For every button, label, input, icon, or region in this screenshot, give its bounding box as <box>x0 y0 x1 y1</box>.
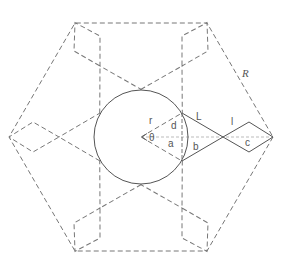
label-l: l <box>231 116 233 127</box>
label-L: L <box>196 111 202 122</box>
arm-180 <box>9 113 100 161</box>
arm-240 <box>54 11 141 114</box>
arm-120 <box>54 161 141 264</box>
label-theta: θ <box>149 132 155 143</box>
arm-300 <box>141 11 228 114</box>
label-d: d <box>171 120 177 131</box>
label-c: c <box>245 137 250 148</box>
label-b: b <box>193 141 199 152</box>
label-a: a <box>168 138 174 149</box>
linkage-diagram: r d θ a b L l c R <box>0 0 282 265</box>
radius-line-lower <box>141 137 182 161</box>
dashed-arms <box>9 11 228 264</box>
label-r: r <box>149 115 153 126</box>
label-R: R <box>241 67 249 79</box>
arm-60 <box>141 161 228 264</box>
